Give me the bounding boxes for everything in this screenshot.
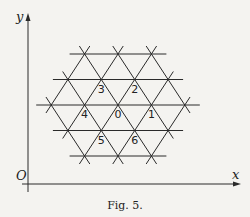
figure-caption: Fig. 5.: [107, 199, 143, 212]
vertex-label-3: 3: [98, 83, 105, 96]
lattice-grid: [36, 46, 200, 164]
vertex-label-5: 5: [98, 134, 105, 147]
diagonal-grid-line-rising: [63, 46, 124, 139]
vertex-label-0: 0: [115, 108, 122, 121]
vertex-labels: 0123456: [81, 83, 155, 147]
y-axis-arrow-icon: [26, 13, 31, 21]
x-axis-label: x: [232, 167, 240, 182]
coordinate-axes: x y O: [15, 9, 241, 192]
vertex-label-4: 4: [81, 108, 88, 121]
vertex-label-6: 6: [131, 134, 138, 147]
triangular-lattice-figure: x y O 0123456 Fig. 5.: [0, 0, 250, 217]
vertex-label-1: 1: [148, 108, 155, 121]
origin-label: O: [16, 168, 27, 183]
y-axis-label: y: [15, 9, 24, 24]
diagonal-grid-line-falling: [113, 46, 174, 139]
vertex-label-2: 2: [131, 83, 138, 96]
diagonal-grid-line-rising: [113, 72, 174, 165]
x-axis-arrow-icon: [233, 182, 241, 187]
